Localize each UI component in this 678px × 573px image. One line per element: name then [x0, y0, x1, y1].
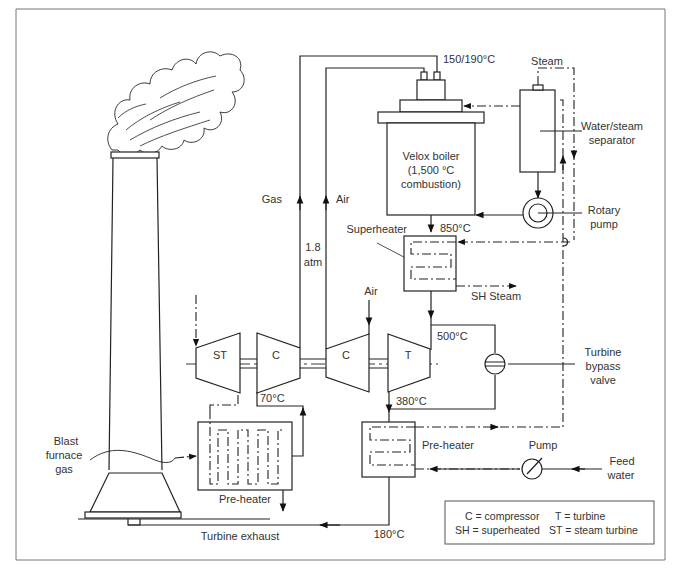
boiler-label-1: Velox boiler: [403, 150, 460, 162]
legend-compressor: C = compressor: [465, 510, 540, 522]
preheater-right-label: Pre-heater: [422, 439, 474, 451]
bypass-label-1: Turbine: [585, 346, 622, 358]
water-steam-separator: Steam Water/steam separator: [520, 55, 643, 290]
preheater-left: Pre-heater: [198, 392, 303, 511]
gas-label: Gas: [262, 193, 283, 205]
rotary-pump-label-2: pump: [590, 218, 618, 230]
air-in-label: Air: [364, 285, 378, 297]
blast-gas-line3: gas: [55, 463, 73, 475]
st-label: ST: [213, 349, 227, 361]
rotary-pump: Rotary pump: [476, 198, 621, 230]
blast-furnace-gas-label: Blast furnace gas: [46, 435, 196, 475]
temp-superheater-in: 850°C: [440, 222, 471, 234]
air-up-label: Air: [336, 193, 350, 205]
separator-label-1: Water/steam: [581, 120, 643, 132]
blast-gas-line1: Blast: [54, 435, 78, 447]
temp-boiler-inlet: 150/190°C: [443, 53, 495, 65]
temp-exhaust: 180°C: [374, 528, 405, 540]
pump-label: Pump: [529, 439, 558, 451]
bypass-label-2: bypass: [586, 360, 621, 372]
bypass-label-3: valve: [590, 374, 616, 386]
temp-compressor-out: 70°C: [260, 392, 285, 404]
superheater: 850°C Superheater SH Steam: [346, 215, 570, 318]
steam-label: Steam: [531, 55, 563, 67]
turbomachinery: ST C C T Air: [186, 285, 438, 393]
feed-water-label-1: Feed: [609, 455, 634, 467]
preheater-left-label: Pre-heater: [219, 493, 271, 505]
separator-label-2: separator: [589, 134, 636, 146]
turbine-bypass: 500°C Turbine bypass valve 380°C 70°C: [260, 318, 621, 412]
steam-turbine: [196, 333, 240, 393]
pressure-value: 1.8: [305, 241, 320, 253]
temp-turbine-out: 380°C: [396, 395, 427, 407]
velox-boiler-diagram: Blast furnace gas Pre-heater ST C C: [0, 0, 678, 573]
turbine-exhaust-label: Turbine exhaust: [201, 530, 279, 542]
feed-water-label-2: water: [607, 469, 635, 481]
compressor-1: [257, 333, 300, 393]
temp-turbine-in: 500°C: [437, 330, 468, 342]
compressor-2: [326, 334, 369, 392]
sh-steam-label: SH Steam: [471, 290, 521, 302]
boiler-label-2: (1,500 °C: [408, 164, 455, 176]
diagram-frame-border: [16, 9, 665, 560]
legend: C = compressor T = turbine SH = superhea…: [445, 501, 654, 544]
pressure-unit: atm: [304, 256, 322, 268]
legend-turbine: T = turbine: [555, 510, 605, 522]
boiler-label-3: combustion): [401, 178, 461, 190]
legend-steam-turbine: ST = steam turbine: [549, 524, 638, 536]
c1-label: C: [272, 349, 280, 361]
turbine: [388, 334, 430, 392]
velox-boiler: Velox boiler (1,500 °C combustion): [378, 72, 520, 215]
legend-superheated: SH = superheated: [455, 524, 540, 536]
c2-label: C: [342, 349, 350, 361]
blast-gas-line2: furnace: [46, 449, 83, 461]
superheater-label: Superheater: [346, 223, 407, 235]
t-label: T: [405, 349, 412, 361]
rotary-pump-label-1: Rotary: [588, 204, 621, 216]
